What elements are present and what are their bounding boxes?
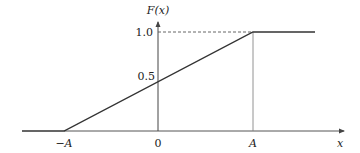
x-tick-zero: 0 — [155, 137, 162, 150]
x-tick-neg-a: −A — [55, 137, 72, 150]
cdf-chart: F(x) 1.0 0.5 −A 0 A x — [0, 0, 360, 153]
x-axis-label: x — [337, 137, 344, 150]
y-tick-half: 0.5 — [138, 70, 156, 83]
x-tick-a: A — [248, 137, 257, 150]
y-axis-label: F(x) — [146, 4, 169, 17]
cdf-line — [22, 32, 315, 131]
y-tick-one: 1.0 — [136, 26, 154, 39]
